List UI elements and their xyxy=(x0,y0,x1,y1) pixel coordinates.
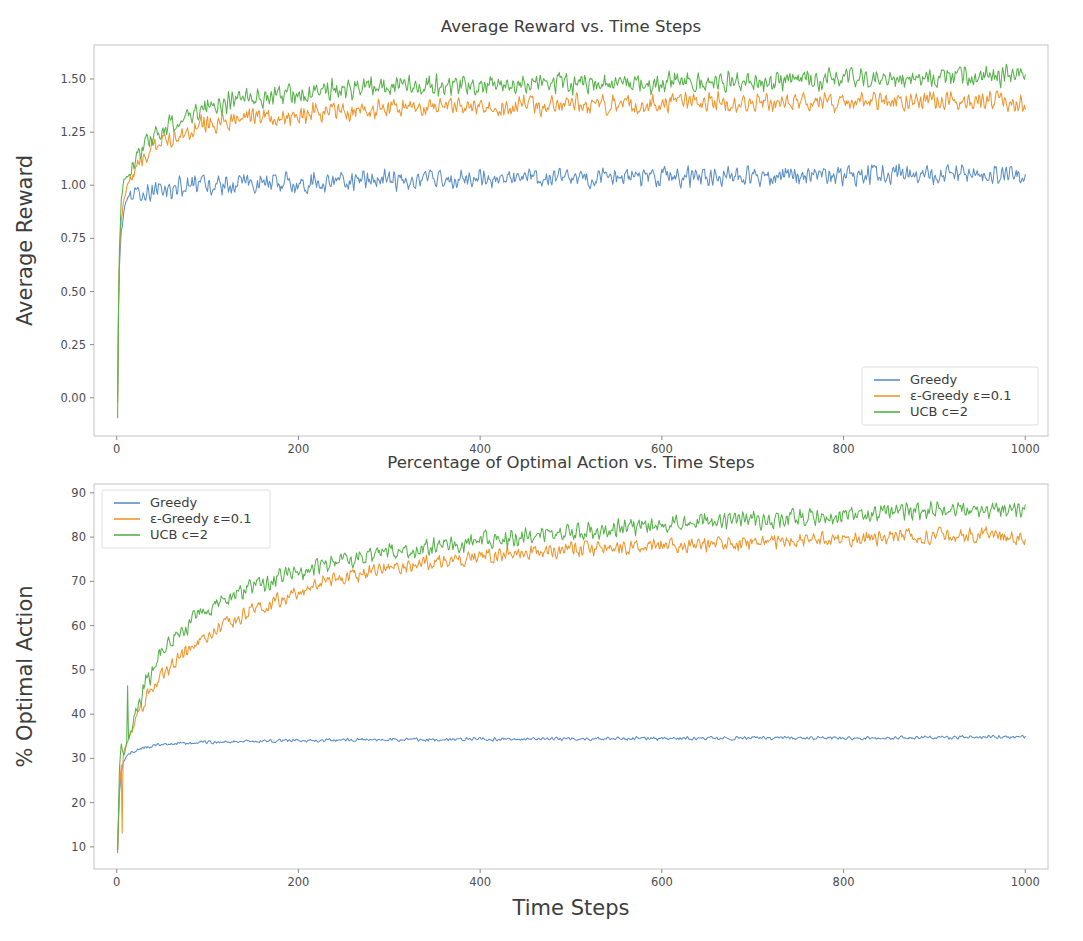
legend-label: Greedy xyxy=(150,495,197,510)
chart-panel-average-reward: Average Reward vs. Time Steps02004006008… xyxy=(0,0,1083,470)
y-tick-label: 0.50 xyxy=(60,285,86,299)
x-tick-label: 1000 xyxy=(1011,875,1040,889)
y-tick-label: 0.25 xyxy=(60,338,86,352)
chart-legend[interactable]: Greedyε-Greedy ε=0.1UCB c=2 xyxy=(862,367,1038,425)
x-tick-label: 800 xyxy=(833,875,855,889)
y-tick-label: 10 xyxy=(71,840,86,854)
y-tick-label: 0.00 xyxy=(60,391,86,405)
y-tick-label: 60 xyxy=(71,619,86,633)
legend-label: UCB c=2 xyxy=(150,527,208,542)
chart-panel-percent-optimal-action: Percentage of Optimal Action vs. Time St… xyxy=(0,452,1083,941)
series-line-greedy-0-1 xyxy=(118,91,1026,402)
y-tick-label: 80 xyxy=(71,530,86,544)
x-axis-title: Time Steps xyxy=(512,896,630,920)
y-tick-label: 0.75 xyxy=(60,231,86,245)
x-tick-label: 0 xyxy=(113,875,120,889)
y-tick-label: 1.00 xyxy=(60,178,86,192)
legend-label: Greedy xyxy=(910,372,957,387)
percent-optimal-action-chart: Percentage of Optimal Action vs. Time St… xyxy=(0,452,1083,941)
legend-label: ε-Greedy ε=0.1 xyxy=(150,511,252,526)
legend-label: UCB c=2 xyxy=(910,404,968,419)
series-line-ucb-c-2 xyxy=(118,501,1026,852)
chart-title: Average Reward vs. Time Steps xyxy=(441,17,701,36)
y-tick-label: 1.50 xyxy=(60,72,86,86)
y-axis-title: Average Reward xyxy=(13,155,37,326)
y-tick-label: 40 xyxy=(71,707,86,721)
x-tick-label: 600 xyxy=(651,875,673,889)
y-tick-label: 20 xyxy=(71,796,86,810)
y-tick-label: 50 xyxy=(71,663,86,677)
average-reward-chart: Average Reward vs. Time Steps02004006008… xyxy=(0,0,1083,470)
series-line-greedy-0-1 xyxy=(118,527,1026,850)
x-tick-label: 200 xyxy=(287,875,309,889)
x-tick-label: 400 xyxy=(469,875,491,889)
y-tick-label: 30 xyxy=(71,751,86,765)
series-line-greedy xyxy=(118,164,1026,396)
series-line-greedy xyxy=(118,735,1026,849)
figure-canvas: Average Reward vs. Time Steps02004006008… xyxy=(0,0,1083,941)
y-tick-label: 90 xyxy=(71,486,86,500)
chart-legend[interactable]: Greedyε-Greedy ε=0.1UCB c=2 xyxy=(102,490,270,548)
chart-title: Percentage of Optimal Action vs. Time St… xyxy=(387,453,754,472)
legend-label: ε-Greedy ε=0.1 xyxy=(910,388,1012,403)
y-tick-label: 1.25 xyxy=(60,125,86,139)
y-tick-label: 70 xyxy=(71,574,86,588)
y-axis-title: % Optimal Action xyxy=(13,585,37,767)
